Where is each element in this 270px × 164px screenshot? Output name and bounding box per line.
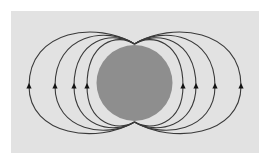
sphere bbox=[97, 45, 173, 121]
field-line-diagram bbox=[0, 0, 270, 164]
diagram-svg bbox=[0, 0, 270, 164]
